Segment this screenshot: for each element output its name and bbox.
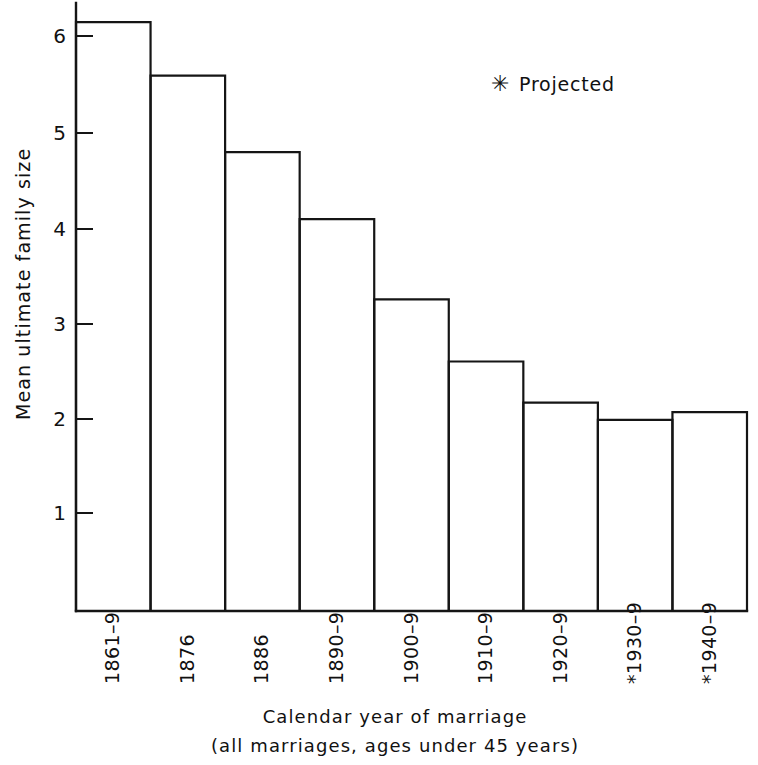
- x-axis-category-label: 1861–9: [101, 612, 123, 684]
- bars-group: [76, 22, 747, 611]
- x-axis-category-label: 1920–9: [549, 612, 571, 684]
- asterisk-marker-icon: ✳: [491, 71, 509, 96]
- x-axis-subtitle: (all marriages, ages under 45 years): [211, 735, 579, 756]
- bar: [225, 152, 300, 611]
- bar: [672, 412, 747, 611]
- y-tick-label-6: 6: [53, 24, 66, 48]
- y-tick-label-1: 1: [53, 501, 66, 525]
- legend-label-projected: Projected: [519, 73, 615, 95]
- x-axis-title: Calendar year of marriage: [263, 706, 528, 727]
- bar-chart-canvas: 1 2 3 4 5 6 1861–9187618861890–91900–919…: [0, 0, 758, 765]
- bar: [523, 403, 598, 611]
- y-tick-label-3: 3: [53, 312, 66, 336]
- chart-axes: [76, 3, 747, 611]
- y-axis-title: Mean ultimate family size: [12, 148, 34, 420]
- legend: ✳ Projected: [491, 71, 615, 96]
- chart-figure: 1 2 3 4 5 6 1861–9187618861890–91900–919…: [0, 0, 758, 765]
- y-tick-label-5: 5: [53, 121, 66, 145]
- x-axis-category-labels: 1861–9187618861890–91900–91910–91920–9*1…: [101, 602, 719, 684]
- x-axis-category-label: *1930–9: [623, 602, 645, 684]
- y-tick-label-2: 2: [53, 407, 66, 431]
- x-axis-category-label: 1876: [176, 634, 198, 684]
- x-axis-category-label: *1940–9: [698, 602, 720, 684]
- y-axis-tick-labels: 1 2 3 4 5 6: [53, 24, 66, 525]
- x-axis-category-label: 1890–9: [325, 612, 347, 684]
- x-axis-category-label: 1886: [250, 634, 272, 684]
- x-axis-category-label: 1900–9: [400, 612, 422, 684]
- bar: [449, 361, 524, 611]
- bar: [76, 22, 151, 611]
- bar: [374, 299, 449, 611]
- y-axis-ticks: [76, 36, 93, 513]
- y-tick-label-4: 4: [53, 217, 66, 241]
- bar: [598, 420, 673, 611]
- bar: [151, 76, 226, 611]
- bar: [300, 219, 375, 611]
- x-axis-category-label: 1910–9: [474, 612, 496, 684]
